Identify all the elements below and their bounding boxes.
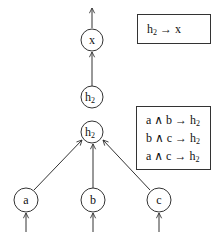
svg-text:c: c bbox=[156, 193, 161, 207]
node-h2-mid: h2 bbox=[81, 121, 103, 143]
rule-box-top: h2 → x bbox=[137, 14, 211, 44]
rule-box-bottom: a ∧ b → h2 b ∧ c → h2 a ∧ c → h2 bbox=[136, 106, 211, 170]
rule-b-and-c: b ∧ c → h2 bbox=[146, 129, 210, 147]
svg-text:x: x bbox=[89, 33, 95, 47]
rule-a-and-b: a ∧ b → h2 bbox=[146, 111, 210, 129]
node-c: c bbox=[147, 188, 171, 212]
node-x: x bbox=[81, 29, 103, 51]
rule-h2-to-x: h2 → x bbox=[147, 20, 210, 38]
edge-a-to-h2 bbox=[34, 140, 82, 190]
node-a: a bbox=[14, 188, 38, 212]
svg-text:a: a bbox=[23, 193, 29, 207]
svg-text:b: b bbox=[90, 193, 96, 207]
node-b: b bbox=[81, 188, 105, 212]
node-h2-top: h2 bbox=[81, 86, 103, 108]
rule-a-and-c: a ∧ c → h2 bbox=[146, 147, 210, 165]
